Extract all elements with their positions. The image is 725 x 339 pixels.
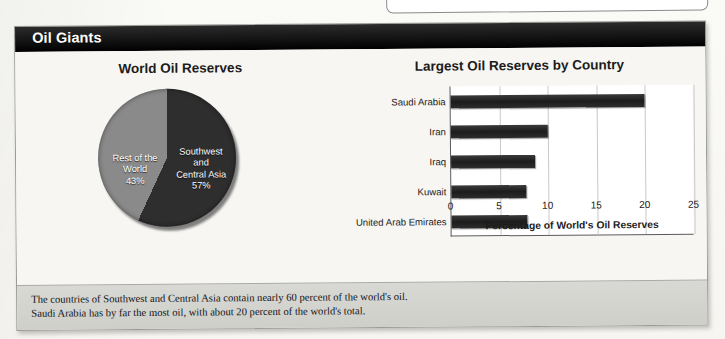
bar-chart-category-labels: Saudi ArabiaIranIraqKuwaitUnited Arab Em…	[345, 87, 446, 238]
pie-slice-name-0: Southwest and Central Asia	[176, 146, 226, 179]
pie-slice-value-0: 57%	[170, 180, 232, 192]
bar-category-label: Iraq	[346, 156, 446, 168]
pie-slice-value-1: 43%	[104, 175, 166, 187]
bar-chart-plot-area	[449, 85, 693, 237]
x-tick-label: 20	[639, 199, 650, 210]
bar[interactable]	[451, 124, 548, 138]
x-tick-label: 25	[688, 199, 699, 210]
pie-chart-block: World Oil Reserves Southwest and Central…	[15, 49, 347, 286]
cut-off-box-above	[386, 0, 709, 14]
bar-row[interactable]	[451, 146, 535, 177]
caption-text: The countries of Southwest and Central A…	[31, 288, 695, 321]
pie-slice-label-southwest-central-asia: Southwest and Central Asia 57%	[170, 134, 233, 203]
bar-chart-title: Largest Oil Reserves by Country	[345, 57, 693, 75]
x-tick-label: 0	[448, 201, 454, 212]
gridline	[645, 85, 647, 234]
bar[interactable]	[451, 154, 535, 168]
bar-chart-block: Largest Oil Reserves by Country Saudi Ar…	[345, 47, 703, 284]
bar-row[interactable]	[451, 116, 548, 147]
pie-chart-title: World Oil Reserves	[15, 59, 345, 77]
caption-band: The countries of Southwest and Central A…	[17, 280, 707, 330]
x-tick-label: 5	[496, 200, 502, 211]
bar-category-label: Saudi Arabia	[346, 96, 446, 108]
bar[interactable]	[451, 94, 645, 109]
bar-row[interactable]	[451, 176, 526, 207]
page-title: Oil Giants	[32, 29, 102, 46]
bar[interactable]	[451, 184, 526, 198]
x-tick-label: 10	[542, 200, 553, 211]
bar-category-label: Iran	[346, 126, 446, 138]
x-tick-label: 15	[591, 199, 602, 210]
bar-chart-x-axis-title: Percentage of World's Oil Reserves	[451, 219, 694, 232]
bar-category-label: United Arab Emirates	[347, 216, 447, 228]
pie-slice-name-1: Rest of the World	[113, 152, 158, 174]
oil-giants-figure-panel: Oil Giants World Oil Reserves Southwest …	[14, 21, 708, 331]
bar-row[interactable]	[450, 85, 645, 117]
panel-body: World Oil Reserves Southwest and Central…	[15, 47, 707, 286]
pie-slice-label-rest-of-world: Rest of the World 43%	[104, 141, 166, 199]
bar-category-label: Kuwait	[346, 186, 446, 198]
gridline	[693, 85, 695, 234]
pie-chart: Southwest and Central Asia 57% Rest of t…	[98, 88, 239, 229]
